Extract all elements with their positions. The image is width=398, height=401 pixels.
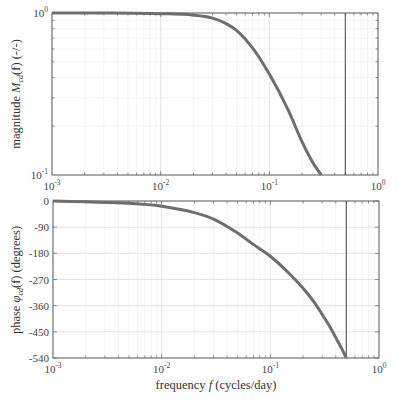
magnitude-ticks (52, 13, 378, 175)
magnitude-curve (52, 13, 321, 175)
y-tick-label: -180 (29, 247, 50, 259)
y-tick-label: 10-1 (31, 167, 48, 181)
frequency-x-label: frequency f (cycles/day) (156, 378, 277, 392)
y-tick-label: -90 (34, 221, 49, 233)
phase-y-label: phase φcd(f) (degrees) (9, 226, 25, 334)
magnitude-axes-frame (52, 13, 378, 175)
x-tick-label: 100 (372, 361, 387, 375)
phase-axes: 10-310-210-11000-90-180-270-360-450-540 (29, 195, 387, 375)
phase-grid (53, 201, 379, 358)
y-tick-label: 100 (33, 5, 48, 19)
y-tick-label: -540 (29, 352, 50, 364)
magnitude-y-label: magnitude Mcd(f) (-/-) (9, 39, 25, 149)
y-tick-label: -360 (29, 300, 50, 312)
magnitude-tick-labels: 10-310-210-110010-1100 (31, 5, 386, 192)
phase-tick-labels: 10-310-210-11000-90-180-270-360-450-540 (29, 195, 387, 375)
y-tick-label: -270 (29, 274, 50, 286)
magnitude-axes: 10-310-210-110010-1100 (31, 5, 386, 192)
magnitude-grid (52, 13, 378, 175)
x-tick-label: 10-3 (43, 178, 60, 192)
y-tick-label: -450 (29, 326, 50, 338)
x-tick-label: 10-2 (153, 361, 170, 375)
x-tick-label: 10-1 (262, 361, 279, 375)
x-tick-label: 100 (371, 178, 386, 192)
x-tick-label: 10-1 (261, 178, 278, 192)
bode-figure: 10-310-210-110010-1100 10-310-210-11000-… (0, 0, 398, 401)
x-tick-label: 10-2 (152, 178, 169, 192)
y-tick-label: 0 (44, 195, 50, 207)
